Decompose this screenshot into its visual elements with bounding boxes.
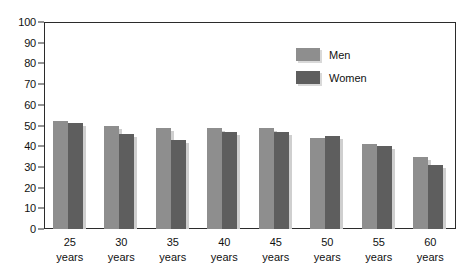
legend-swatch-women [296,71,320,84]
legend: MenWomen [296,45,406,91]
x-axis-tick-label: 50years [314,235,341,265]
x-axis-tick-unit: years [417,250,444,265]
x-axis-tick-label: 45years [262,235,289,265]
y-axis-tick-label: 60 [24,99,36,111]
x-axis-tick-label: 25years [56,235,83,265]
x-axis-tick-unit: years [365,250,392,265]
x-axis-tick-number: 40 [211,235,238,250]
x-axis-tick-label: 60years [417,235,444,265]
x-axis-tick-number: 45 [262,235,289,250]
y-axis-tick-label: 70 [24,78,36,90]
bar-men-50[interactable] [310,138,325,229]
y-axis-tick-label: 80 [24,57,36,69]
legend-item-women[interactable]: Women [296,68,406,87]
x-axis: 25years30years35years40years45years50yea… [44,229,456,272]
x-axis-tick-unit: years [211,250,238,265]
bar-men-25[interactable] [53,121,68,229]
legend-item-men[interactable]: Men [296,45,406,64]
bar-group [259,22,297,229]
bar-women-45[interactable] [274,132,289,229]
y-axis-tick-label: 90 [24,37,36,49]
x-axis-tick-number: 35 [159,235,186,250]
x-axis-tick-number: 55 [365,235,392,250]
bar-group [104,22,142,229]
bar-women-60[interactable] [428,165,443,229]
legend-swatch-men [296,48,320,61]
bar-group [53,22,91,229]
x-axis-tick-unit: years [108,250,135,265]
x-axis-tick-label: 35years [159,235,186,265]
y-axis-tick-label: 30 [24,161,36,173]
x-axis-tick-unit: years [262,250,289,265]
x-axis-tick-label: 55years [365,235,392,265]
y-axis-tick-label: 10 [24,202,36,214]
bar-women-30[interactable] [119,134,134,229]
y-axis-tick-label: 100 [18,16,36,28]
x-axis-tick-number: 25 [56,235,83,250]
x-axis-tick-label: 30years [108,235,135,265]
y-axis-tick-label: 50 [24,120,36,132]
legend-label: Men [329,49,350,61]
bar-women-55[interactable] [377,146,392,229]
bar-group [207,22,245,229]
bar-group [156,22,194,229]
bar-women-40[interactable] [222,132,237,229]
x-axis-tick-label: 40years [211,235,238,265]
y-axis: 0102030405060708090100 [0,0,44,272]
bar-chart: 0102030405060708090100 25years30years35y… [0,0,475,272]
bar-women-50[interactable] [325,136,340,229]
bar-women-25[interactable] [68,123,83,229]
y-axis-tick-label: 0 [30,223,36,235]
x-axis-tick-unit: years [56,250,83,265]
bar-men-40[interactable] [207,128,222,229]
x-axis-tick-unit: years [159,250,186,265]
bar-men-60[interactable] [413,157,428,229]
y-axis-tick-label: 20 [24,182,36,194]
bar-men-55[interactable] [362,144,377,229]
bar-men-45[interactable] [259,128,274,229]
x-axis-tick-number: 50 [314,235,341,250]
bar-women-35[interactable] [171,140,186,229]
x-axis-tick-unit: years [314,250,341,265]
bar-men-30[interactable] [104,126,119,230]
bar-group [413,22,451,229]
legend-label: Women [329,72,367,84]
x-axis-tick-number: 30 [108,235,135,250]
bar-men-35[interactable] [156,128,171,229]
y-axis-tick-label: 40 [24,140,36,152]
x-axis-tick-number: 60 [417,235,444,250]
